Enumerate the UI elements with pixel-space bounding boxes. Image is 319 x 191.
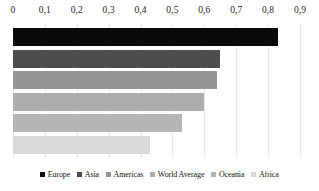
legend-swatch-icon xyxy=(211,172,216,177)
legend-label: Americas xyxy=(114,170,144,179)
legend-swatch-icon xyxy=(150,172,155,177)
bar-africa[interactable] xyxy=(13,136,150,154)
legend-label: Europe xyxy=(48,170,71,179)
legend-swatch-icon xyxy=(77,172,82,177)
legend-label: Africa xyxy=(259,170,279,179)
bar-world-average[interactable] xyxy=(13,93,204,111)
x-axis-tick-label: 0,7 xyxy=(230,5,242,16)
gridline xyxy=(300,24,301,158)
x-axis-tick-label: 0,4 xyxy=(134,5,146,16)
bar-europe[interactable] xyxy=(13,28,278,46)
x-axis-tick-label: 0,1 xyxy=(39,5,51,16)
x-axis-tick-label: 0,5 xyxy=(166,5,178,16)
x-axis-labels: 00,10,20,30,40,50,60,70,80,9 xyxy=(0,0,319,24)
chart-legend: EuropeAsiaAmericasWorld AverageOceaniaAf… xyxy=(0,164,319,184)
bar-asia[interactable] xyxy=(13,50,220,68)
legend-item-africa[interactable]: Africa xyxy=(251,170,278,179)
legend-swatch-icon xyxy=(40,172,45,177)
legend-item-europe[interactable]: Europe xyxy=(40,170,70,179)
bar-oceania[interactable] xyxy=(13,114,182,132)
legend-label: Asia xyxy=(85,170,99,179)
legend-label: World Average xyxy=(158,170,205,179)
bar-series xyxy=(13,24,300,158)
legend-item-world-average[interactable]: World Average xyxy=(150,170,204,179)
legend-swatch-icon xyxy=(251,172,256,177)
legend-label: Oceania xyxy=(219,170,245,179)
bar-chart: 00,10,20,30,40,50,60,70,80,9 EuropeAsiaA… xyxy=(0,0,319,191)
x-axis-tick-label: 0,6 xyxy=(198,5,210,16)
bar-americas[interactable] xyxy=(13,71,217,89)
x-axis-tick-label: 0,8 xyxy=(262,5,274,16)
plot-area xyxy=(13,24,300,158)
legend-item-oceania[interactable]: Oceania xyxy=(211,170,244,179)
legend-swatch-icon xyxy=(106,172,111,177)
x-axis-tick-label: 0 xyxy=(11,5,16,16)
x-axis-tick-label: 0,2 xyxy=(71,5,83,16)
legend-item-asia[interactable]: Asia xyxy=(77,170,99,179)
legend-item-americas[interactable]: Americas xyxy=(106,170,143,179)
x-axis-tick-label: 0,9 xyxy=(294,5,306,16)
x-axis-tick-label: 0,3 xyxy=(103,5,115,16)
